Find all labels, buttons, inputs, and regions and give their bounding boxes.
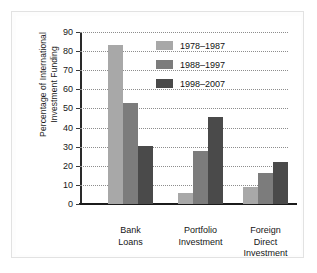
y-axis-title: Percentage of International Investment F…	[38, 0, 59, 170]
bar[interactable]	[178, 193, 193, 204]
bar[interactable]	[193, 151, 208, 205]
x-axis-category-label: ForeignDirectInvestment	[216, 225, 316, 260]
y-axis-tick-label: 90	[63, 27, 73, 37]
legend-item[interactable]: 1998–2007	[156, 76, 225, 91]
legend-item[interactable]: 1988–1997	[156, 57, 225, 72]
y-axis-title-line-1: Percentage of International	[38, 0, 49, 170]
bar-group	[108, 32, 153, 204]
y-axis-tick	[76, 108, 80, 109]
y-axis-tick	[76, 128, 80, 129]
y-axis-tick	[76, 51, 80, 52]
bar[interactable]	[208, 117, 223, 204]
bar[interactable]	[258, 173, 273, 204]
x-axis-label-line: Investment	[216, 248, 316, 260]
bar[interactable]	[273, 162, 288, 204]
y-axis-tick-label: 30	[63, 142, 73, 152]
y-axis-tick	[76, 166, 80, 167]
x-axis-label-line: Direct	[216, 237, 316, 249]
y-axis-tick-label: 60	[63, 84, 73, 94]
legend-swatch	[156, 79, 173, 88]
legend-label: 1978–1987	[180, 41, 225, 51]
y-axis-tick	[76, 204, 80, 205]
y-axis-tick-label: 40	[63, 123, 73, 133]
chart-legend: 1978–19871988–19971998–2007	[156, 38, 225, 95]
figure-frame: Percentage of International Investment F…	[11, 11, 304, 258]
y-axis-tick-label: 70	[63, 65, 73, 75]
y-axis-tick-label: 10	[63, 180, 73, 190]
y-axis-tick	[76, 32, 80, 33]
bar[interactable]	[123, 103, 138, 204]
bar[interactable]	[243, 187, 258, 204]
x-axis-label-line: Foreign	[216, 225, 316, 237]
y-axis-tick-label: 80	[63, 46, 73, 56]
legend-label: 1998–2007	[180, 79, 225, 89]
bar[interactable]	[138, 146, 153, 204]
y-axis-tick	[76, 70, 80, 71]
legend-swatch	[156, 60, 173, 69]
y-axis-tick	[76, 185, 80, 186]
legend-item[interactable]: 1978–1987	[156, 38, 225, 53]
y-axis-tick	[76, 147, 80, 148]
bar[interactable]	[108, 45, 123, 204]
y-axis-tick-label: 50	[63, 103, 73, 113]
bar-group	[243, 32, 288, 204]
legend-swatch	[156, 41, 173, 50]
y-axis-tick-label: 0	[68, 199, 73, 209]
y-axis-title-line-2: Investment Funding	[48, 0, 59, 170]
y-axis-tick	[76, 89, 80, 90]
y-axis-tick-label: 20	[63, 161, 73, 171]
legend-label: 1988–1997	[180, 60, 225, 70]
chart-canvas: Percentage of International Investment F…	[16, 16, 301, 255]
